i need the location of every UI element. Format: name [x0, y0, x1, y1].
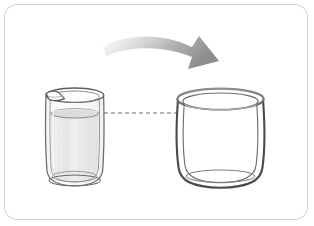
tall-narrow-beaker [46, 88, 104, 186]
illustration-artwork [0, 0, 314, 226]
illustration-stage: Conservation of liquid volume Water pour… [0, 0, 314, 226]
pouring-direction-arrow [103, 36, 219, 69]
wide-short-container [177, 89, 265, 188]
